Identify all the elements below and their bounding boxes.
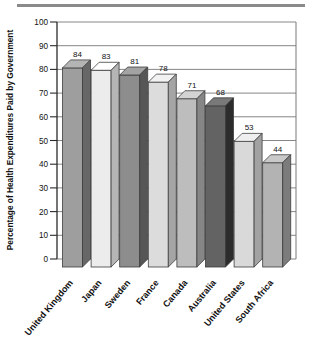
figure-panel: 1009080706050403020100Percentage of Heal…	[0, 0, 314, 358]
bar	[91, 62, 119, 267]
bar-side-face	[226, 98, 234, 267]
bar-value-label: 83	[102, 52, 111, 61]
bar-side-face	[197, 91, 205, 267]
bar-side-face	[283, 155, 291, 267]
bar-front-face	[234, 141, 254, 267]
y-tick-label: 60	[39, 113, 49, 122]
bar-side-face	[140, 67, 148, 267]
bar-value-label: 81	[130, 57, 139, 66]
bar-side-face	[83, 60, 91, 267]
bar	[63, 60, 91, 267]
bar-value-label: 44	[273, 145, 282, 154]
bar	[234, 133, 262, 267]
bar	[177, 91, 205, 267]
y-tick-label: 100	[34, 18, 48, 27]
x-category-label: Canada	[161, 277, 190, 309]
y-tick-label: 70	[39, 89, 49, 98]
bar	[148, 74, 176, 267]
x-category-label: United Kingdom	[23, 278, 75, 338]
bar-front-face	[206, 106, 226, 267]
bar-chart: 1009080706050403020100Percentage of Heal…	[0, 0, 314, 358]
y-axis-title: Percentage of Health Expenditures Paid b…	[5, 30, 15, 251]
bar	[206, 98, 234, 267]
bar-side-face	[254, 133, 262, 267]
bar-value-label: 53	[245, 123, 254, 132]
y-tick-label: 0	[43, 255, 48, 264]
bar-front-face	[263, 163, 283, 267]
y-tick-label: 80	[39, 65, 49, 74]
bar-side-face	[111, 62, 119, 267]
bar	[263, 155, 291, 267]
y-tick-label: 90	[39, 42, 49, 51]
bar-front-face	[148, 82, 168, 267]
bar-front-face	[63, 68, 83, 267]
bar-value-label: 84	[73, 50, 82, 59]
y-tick-label: 10	[39, 231, 49, 240]
bar-value-label: 68	[216, 88, 225, 97]
x-category-label: Sweden	[103, 278, 133, 310]
y-tick-label: 40	[39, 160, 49, 169]
y-tick-label: 50	[39, 137, 49, 146]
y-tick-label: 30	[39, 184, 49, 193]
bar	[120, 67, 148, 267]
x-category-label: France	[134, 278, 161, 307]
bar-value-label: 71	[187, 81, 196, 90]
bar-front-face	[91, 70, 111, 267]
bar-front-face	[177, 99, 197, 267]
bar-side-face	[168, 74, 176, 267]
bar-value-label: 78	[159, 64, 168, 73]
x-category-label: Japan	[79, 278, 103, 304]
bar-front-face	[120, 75, 140, 267]
y-tick-label: 20	[39, 208, 49, 217]
